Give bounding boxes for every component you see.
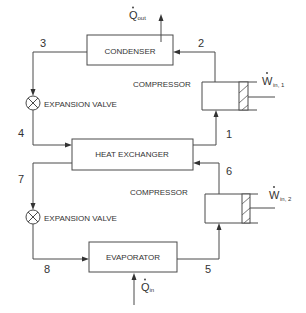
arrow-right-icon	[65, 143, 72, 148]
evaporator-label: EVAPORATOR	[106, 253, 160, 262]
arrow-left-icon	[193, 161, 200, 166]
w-in-2-subscript: in, 2	[280, 196, 292, 202]
state-4-label: 4	[18, 127, 24, 139]
arrow-up-icon	[217, 223, 222, 230]
state-3-label: 3	[40, 37, 46, 49]
dot-icon	[144, 279, 146, 281]
arrow-down-icon	[31, 203, 36, 210]
arrow-right-icon	[82, 257, 89, 262]
state-7-label: 7	[18, 173, 24, 185]
compressor-1-label: COMPRESSOR	[133, 80, 191, 89]
expansion-valve-1: EXPANSION VALVE	[26, 96, 117, 110]
state-2-label: 2	[198, 37, 204, 49]
expansion-valve-2: EXPANSION VALVE	[26, 210, 117, 224]
stream-1: 1	[193, 110, 232, 145]
expansion-valve-2-label: EXPANSION VALVE	[44, 214, 117, 223]
w-in-1-symbol: W	[262, 75, 273, 87]
heat-exchanger: HEAT EXCHANGER	[72, 139, 193, 170]
condenser-label: CONDENSER	[104, 47, 155, 56]
arrow-left-icon	[173, 50, 180, 55]
compressor-2: COMPRESSOR W in, 2	[130, 186, 292, 223]
state-8-label: 8	[44, 263, 50, 275]
dot-icon	[132, 7, 134, 9]
stream-3: 3	[31, 37, 88, 96]
arrow-up-icon	[159, 14, 164, 21]
arrow-up-icon	[132, 273, 137, 280]
state-1-label: 1	[226, 128, 232, 140]
heat-in-arrow: Q in	[132, 273, 155, 305]
arrow-up-icon	[214, 110, 219, 117]
evaporator: EVAPORATOR	[89, 242, 177, 272]
w-in-2-symbol: W	[269, 189, 280, 201]
stream-2: 2	[173, 37, 215, 82]
dot-icon	[266, 72, 268, 74]
w-in-1-subscript: in, 1	[273, 82, 285, 88]
stream-8: 8	[33, 224, 89, 275]
arrow-down-icon	[31, 89, 36, 96]
state-6-label: 6	[226, 165, 232, 177]
stream-6: 6	[193, 161, 232, 195]
state-5-label: 5	[205, 263, 211, 275]
compressor-1: COMPRESSOR W in, 1	[133, 72, 285, 110]
stream-4: 4	[18, 110, 72, 148]
q-in-subscript: in	[150, 287, 155, 293]
q-out-subscript: out	[138, 15, 147, 21]
dot-icon	[273, 186, 275, 188]
compressor-2-label: COMPRESSOR	[130, 188, 188, 197]
stream-5: 5	[177, 223, 222, 275]
two-stage-refrigeration-diagram: CONDENSER Q out 2 3 EXPANSION VALVE 4 HE…	[0, 0, 306, 313]
stream-7: 7	[18, 163, 72, 210]
heat-exchanger-label: HEAT EXCHANGER	[95, 150, 169, 159]
condenser: CONDENSER	[87, 35, 173, 65]
expansion-valve-1-label: EXPANSION VALVE	[44, 100, 117, 109]
